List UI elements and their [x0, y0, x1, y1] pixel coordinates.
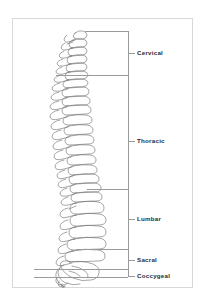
region-label-lumbar: Lumbar: [137, 216, 161, 222]
region-bracket-icon: [12, 18, 193, 288]
region-label-coccygeal: Coccygeal: [137, 273, 170, 279]
region-label-thoracic: Thoracic: [137, 138, 165, 144]
region-label-cervical: Cervical: [137, 50, 163, 56]
spine-diagram-page: Cervical Thoracic Lumbar Sacral Coccygea…: [0, 0, 207, 303]
region-label-sacral: Sacral: [137, 257, 157, 263]
